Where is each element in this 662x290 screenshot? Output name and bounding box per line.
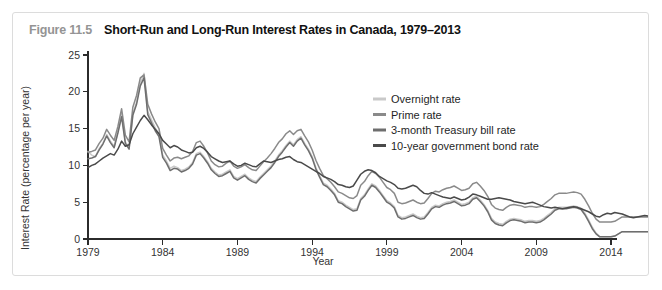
y-tick-label: 15 — [68, 122, 80, 134]
y-axis: 0510152025 — [68, 49, 88, 245]
figure-header: Figure 11.5 Short-Run and Long-Run Inter… — [29, 23, 461, 37]
series-line-2 — [88, 78, 648, 237]
y-axis-title: Interest Rate (percentage per year) — [19, 86, 31, 250]
figure-card: Figure 11.5 Short-Run and Long-Run Inter… — [12, 12, 649, 276]
y-tick-label: 5 — [74, 196, 80, 208]
legend-label-1: Prime rate — [391, 109, 442, 121]
y-tick-label: 25 — [68, 49, 80, 61]
y-tick-label: 0 — [74, 233, 80, 245]
x-axis-title: Year — [312, 255, 334, 267]
legend-label-2: 3-month Treasury bill rate — [391, 124, 516, 136]
series-line-0 — [88, 73, 648, 236]
x-tick-label: 1989 — [226, 246, 250, 258]
interest-rate-line-chart: 0510152025 19791984198919941999200420092… — [13, 43, 648, 275]
y-tick-label: 20 — [68, 85, 80, 97]
figure-title: Short-Run and Long-Run Interest Rates in… — [104, 23, 461, 37]
chart-legend: Overnight ratePrime rate3-month Treasury… — [373, 93, 539, 152]
x-tick-label: 1984 — [151, 246, 175, 258]
y-tick-label: 10 — [68, 159, 80, 171]
x-tick-label: 2014 — [599, 246, 623, 258]
figure-number: Figure 11.5 — [29, 23, 92, 37]
x-tick-label: 2009 — [525, 246, 549, 258]
chart-series-group — [88, 73, 648, 236]
legend-label-3: 10-year government bond rate — [391, 140, 539, 152]
legend-label-0: Overnight rate — [391, 93, 461, 105]
x-tick-label: 1979 — [76, 246, 100, 258]
x-tick-label: 1999 — [375, 246, 399, 258]
x-tick-label: 2004 — [450, 246, 474, 258]
chart-plot-area: 0510152025 19791984198919941999200420092… — [13, 43, 648, 275]
x-axis: 19791984198919941999200420092014 — [76, 239, 623, 258]
series-line-1 — [88, 75, 648, 222]
